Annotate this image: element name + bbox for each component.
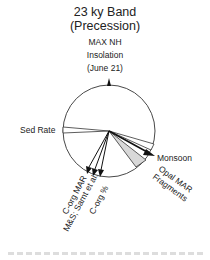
label-monsoon: Monsoon [157, 153, 192, 163]
phase-wheel-diagram: Sed Rate Monsoon Opal MAR Fragments C-or… [0, 0, 210, 260]
cropped-caption [8, 252, 204, 255]
reference-marker-icon [107, 78, 111, 86]
label-sed-rate: Sed Rate [20, 125, 56, 135]
